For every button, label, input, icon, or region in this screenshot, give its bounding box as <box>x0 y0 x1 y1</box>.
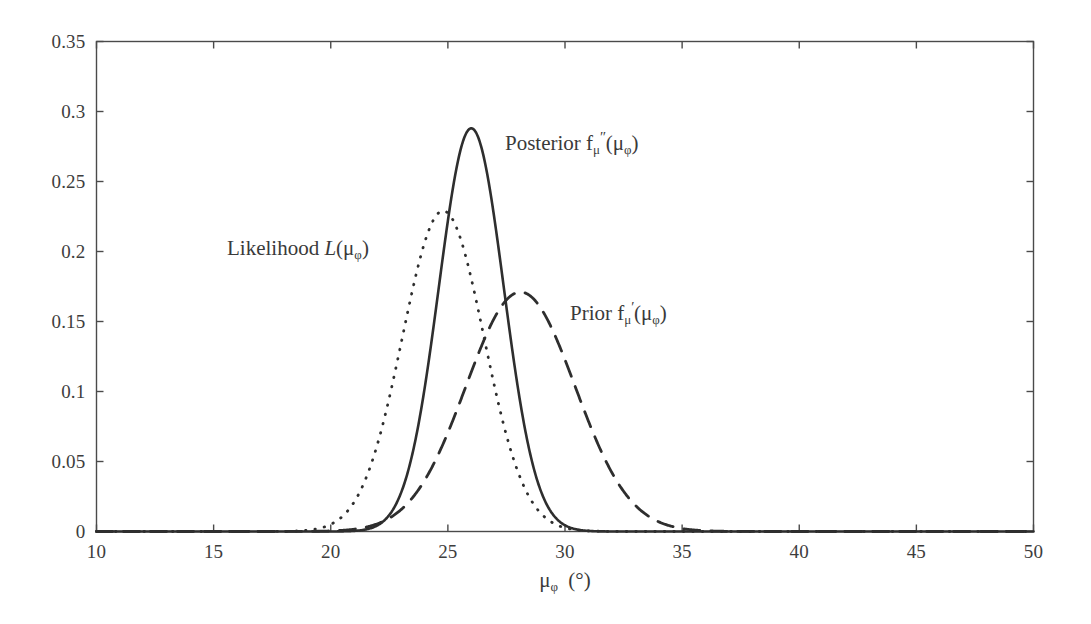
x-axis-title-sub: φ <box>551 579 559 594</box>
y-tick-label: 0.1 <box>10 381 86 403</box>
x-axis-title-unit: (°) <box>568 568 590 592</box>
curve-dashed <box>97 292 1034 531</box>
prior-label: Prior fμ′(μφ) <box>570 303 667 324</box>
plot-frame <box>97 42 1034 532</box>
posterior-label: Posterior fμ″(μφ) <box>505 133 638 154</box>
x-tick-label: 20 <box>321 541 340 563</box>
posterior-arg-open: ( <box>606 131 613 155</box>
prior-arg-open: ( <box>634 301 641 325</box>
data-curves <box>97 128 1034 531</box>
prior-arg-sub: φ <box>652 312 660 327</box>
x-axis-title-mu: μ <box>539 568 550 592</box>
figure-container: 00.050.10.150.20.250.30.35 1015202530354… <box>0 0 1091 624</box>
y-tick-label: 0.35 <box>10 31 86 53</box>
x-tick-label: 50 <box>1024 541 1043 563</box>
y-tick-label: 0 <box>10 521 86 543</box>
likelihood-label-prefix: Likelihood <box>227 236 324 260</box>
x-tick-label: 10 <box>87 541 106 563</box>
posterior-arg-mu: μ <box>613 131 624 155</box>
x-tick-label: 30 <box>555 541 574 563</box>
prior-arg-mu: μ <box>641 301 652 325</box>
curve-solid <box>97 128 1034 531</box>
likelihood-arg-close: ) <box>362 236 369 260</box>
y-tick-label: 0.05 <box>10 451 86 473</box>
likelihood-arg-mu: μ <box>343 236 354 260</box>
likelihood-label: Likelihood L(μφ) <box>227 238 369 259</box>
y-tick-label: 0.15 <box>10 311 86 333</box>
likelihood-symbol: L <box>324 236 336 260</box>
chart-canvas <box>0 0 1091 624</box>
posterior-symbol-sub: μ <box>593 142 600 157</box>
axis-ticks <box>97 42 1034 532</box>
x-tick-label: 45 <box>907 541 926 563</box>
y-tick-label: 0.3 <box>10 101 86 123</box>
x-tick-label: 25 <box>438 541 457 563</box>
x-tick-label: 40 <box>790 541 809 563</box>
y-tick-label: 0.25 <box>10 171 86 193</box>
x-tick-label: 15 <box>204 541 223 563</box>
posterior-arg-close: ) <box>631 131 638 155</box>
x-axis-title: μφ (°) <box>539 568 590 593</box>
posterior-label-prefix: Posterior <box>505 131 586 155</box>
y-tick-label: 0.2 <box>10 241 86 263</box>
x-tick-label: 35 <box>672 541 691 563</box>
likelihood-arg-sub: φ <box>354 247 362 262</box>
prior-label-prefix: Prior <box>570 301 617 325</box>
prior-arg-close: ) <box>660 301 667 325</box>
